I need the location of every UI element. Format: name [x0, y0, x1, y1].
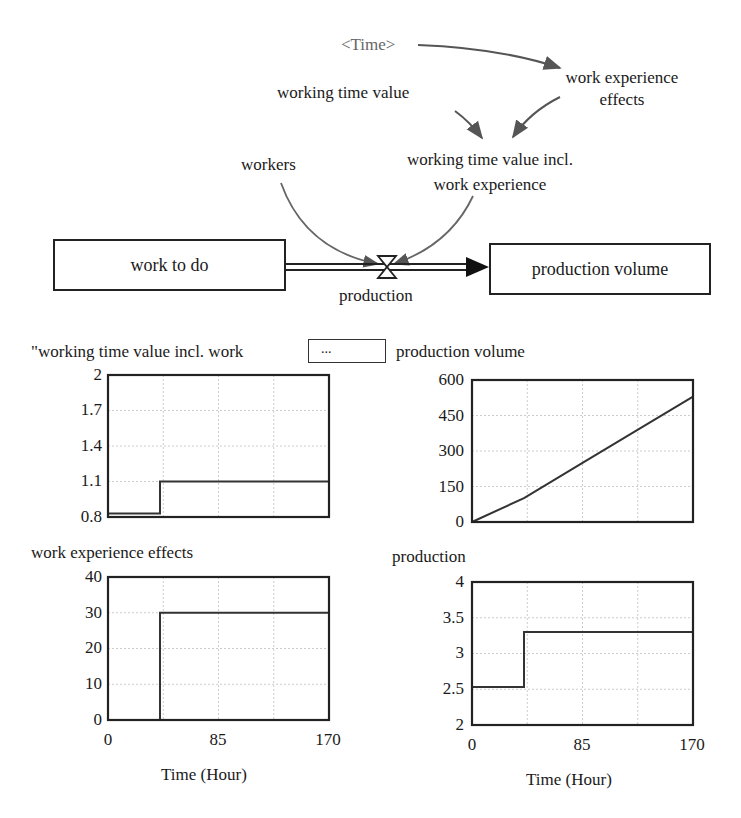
y-tick: 20: [62, 639, 102, 656]
chart3-xlabel: Time (Hour): [161, 766, 247, 783]
y-tick: 2: [62, 366, 102, 383]
y-tick: 30: [62, 604, 102, 621]
y-tick: 300: [424, 442, 464, 459]
y-tick: 1.7: [62, 401, 102, 418]
x-tick: 170: [672, 736, 712, 753]
y-tick: 4: [424, 573, 464, 590]
y-tick: 450: [424, 407, 464, 424]
y-tick: 0: [62, 711, 102, 728]
x-tick: 0: [452, 736, 492, 753]
x-tick: 170: [308, 731, 348, 748]
y-tick: 3.5: [424, 609, 464, 626]
y-tick: 10: [62, 675, 102, 692]
x-tick: 85: [562, 736, 602, 753]
y-tick: 40: [62, 568, 102, 585]
x-tick: 0: [88, 731, 128, 748]
y-tick: 1.1: [62, 472, 102, 489]
y-tick: 3: [424, 644, 464, 661]
chart4-xlabel: Time (Hour): [526, 771, 612, 788]
y-tick: 0.8: [62, 508, 102, 525]
y-tick: 150: [424, 478, 464, 495]
x-tick: 85: [198, 731, 238, 748]
y-tick: 2: [424, 716, 464, 733]
y-tick: 1.4: [62, 437, 102, 454]
y-tick: 600: [424, 371, 464, 388]
chart-production: [0, 0, 741, 818]
y-tick: 0: [424, 513, 464, 530]
y-tick: 2.5: [424, 680, 464, 697]
